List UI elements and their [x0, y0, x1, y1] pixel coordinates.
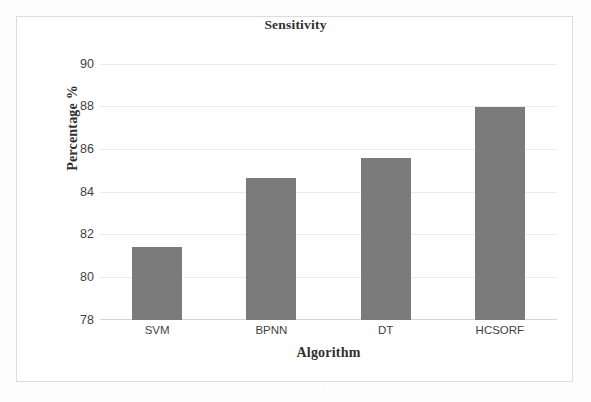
- x-tick-label: HCSORF: [445, 324, 555, 336]
- x-tick-label: DT: [331, 324, 441, 336]
- x-tick-label: BPNN: [216, 324, 326, 336]
- chart-title: Sensitivity: [0, 17, 591, 33]
- y-tick-label: 78: [60, 313, 94, 327]
- y-tick-label: 86: [60, 142, 94, 156]
- y-tick-label: 80: [60, 270, 94, 284]
- bar[interactable]: [246, 178, 296, 320]
- bar[interactable]: [475, 107, 525, 320]
- x-axis-tick-labels: SVMBPNNDTHCSORF: [100, 324, 557, 344]
- x-axis-title: Algorithm: [100, 345, 557, 361]
- bar[interactable]: [361, 158, 411, 320]
- y-tick-label: 84: [60, 185, 94, 199]
- y-tick-label: 88: [60, 99, 94, 113]
- y-tick-label: 90: [60, 57, 94, 71]
- plot-area: [100, 64, 557, 320]
- x-tick-label: SVM: [102, 324, 212, 336]
- bar[interactable]: [132, 247, 182, 320]
- y-tick-label: 82: [60, 227, 94, 241]
- y-axis-tick-labels: 78808284868890: [56, 64, 94, 320]
- gridline: [100, 64, 557, 65]
